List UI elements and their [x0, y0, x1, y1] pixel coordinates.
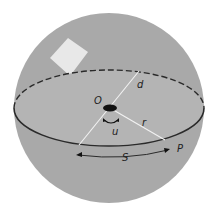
label-d: d [137, 79, 144, 90]
label-u: u [112, 126, 118, 137]
label-s: S [122, 152, 129, 163]
label-o: O [94, 95, 102, 106]
label-p: P [177, 143, 184, 154]
sphere-diagram: d O u r P S [0, 0, 218, 210]
center-dot [103, 105, 117, 112]
